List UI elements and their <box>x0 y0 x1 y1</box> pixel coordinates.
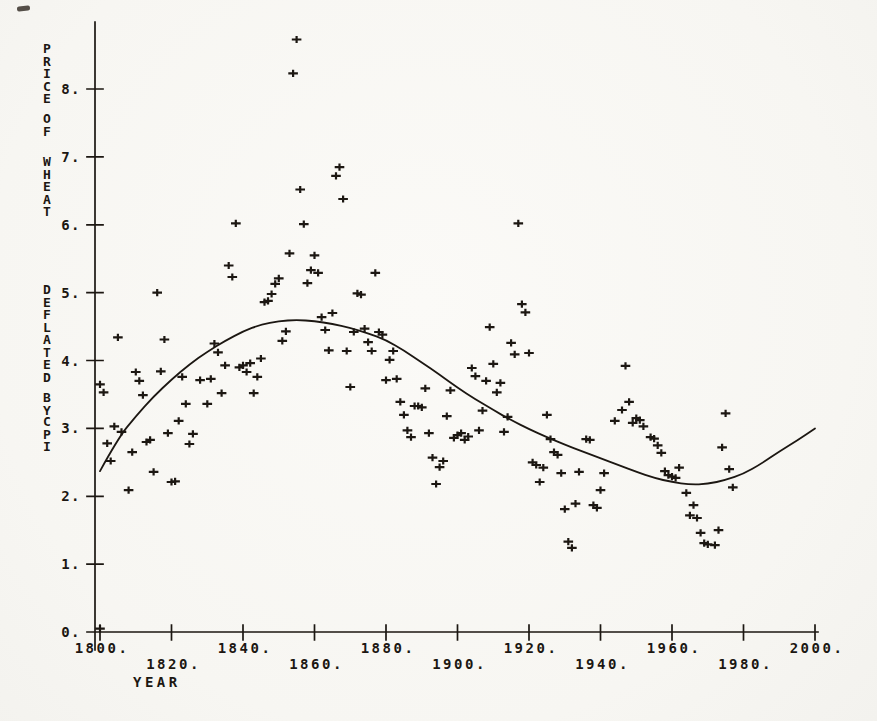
x-axis-label: YEAR <box>133 674 181 690</box>
y-axis-label: PRICEOFWHEATDEFLATEDBYCPI <box>43 41 51 454</box>
y-tick-label: 6. <box>61 217 81 233</box>
x-tick-label: 1820. <box>146 656 201 672</box>
y-tick-label: 2. <box>61 488 81 504</box>
x-tick-label: 1860. <box>289 656 344 672</box>
y-tick-label: 8. <box>61 81 81 97</box>
y-tick-label: 7. <box>61 149 81 165</box>
x-tick-label: 1960. <box>647 640 702 656</box>
wheat-price-chart: 0.1.2.3.4.5.6.7.8. 1800.1820.1840.1860.1… <box>0 0 877 721</box>
axes <box>87 22 818 650</box>
y-axis-letter: I <box>43 439 51 454</box>
x-tick-label: 1940. <box>575 656 630 672</box>
y-axis-letter: D <box>43 370 51 385</box>
x-tick-label: 1980. <box>718 656 773 672</box>
y-tick-label: 3. <box>61 420 81 436</box>
y-axis-letter: F <box>43 124 51 139</box>
y-tick-label: 5. <box>61 285 81 301</box>
y-tick-labels: 0.1.2.3.4.5.6.7.8. <box>61 81 81 640</box>
x-tick-label: 1880. <box>361 640 416 656</box>
x-tick-labels: 1800.1820.1840.1860.1880.1900.1920.1940.… <box>75 640 845 672</box>
x-tick-label: 1920. <box>504 640 559 656</box>
x-tick-label: 1900. <box>432 656 487 672</box>
x-tick-label: 1800. <box>75 640 130 656</box>
y-tick-label: 1. <box>61 556 81 572</box>
y-axis-letter: E <box>43 91 51 106</box>
x-tick-label: 1840. <box>218 640 273 656</box>
y-tick-label: 0. <box>61 624 81 640</box>
scatter-points <box>95 36 737 632</box>
y-tick-label: 4. <box>61 353 81 369</box>
wheat-price-scatter-page: 0.1.2.3.4.5.6.7.8. 1800.1820.1840.1860.1… <box>0 0 877 721</box>
y-axis-letter: T <box>43 204 51 219</box>
x-tick-label: 2000. <box>790 640 845 656</box>
